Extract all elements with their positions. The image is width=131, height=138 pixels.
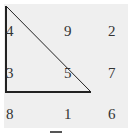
cell-r2c2: 5 [64, 66, 72, 81]
cell-r1c2: 9 [64, 24, 72, 39]
cell-r1c1: 4 [6, 24, 14, 39]
cell-r3c1: 8 [6, 107, 14, 122]
figure-caption-fragment [50, 131, 62, 133]
cell-r2c3: 7 [108, 66, 116, 81]
cell-r1c3: 2 [108, 24, 116, 39]
cell-r3c3: 6 [108, 107, 116, 122]
cell-r3c2: 1 [64, 107, 72, 122]
cell-r2c1: 3 [6, 66, 14, 81]
